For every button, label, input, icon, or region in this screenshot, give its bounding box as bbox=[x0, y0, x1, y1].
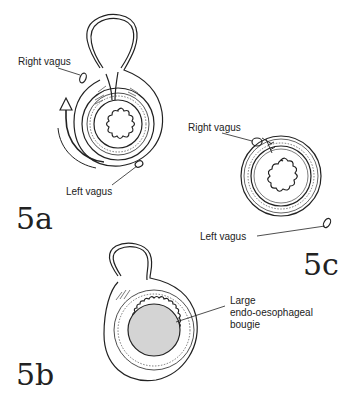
fig5b-bougie-label-line3: bougie bbox=[230, 319, 260, 331]
fig5b-drawing bbox=[104, 243, 225, 380]
fig5c-figure-number: 5c bbox=[303, 250, 339, 280]
fig5c-right-vagus-label: Right vagus bbox=[188, 122, 241, 134]
fig5c-left-vagus-label: Left vagus bbox=[200, 231, 246, 243]
fig5a-right-vagus-label: Right vagus bbox=[18, 56, 71, 68]
fig5c-drawing bbox=[222, 133, 332, 236]
fig5a-left-vagus-label: Left vagus bbox=[66, 186, 112, 198]
fig5a-figure-number: 5a bbox=[16, 204, 53, 234]
diagram-canvas: Right vagus Left vagus 5a Right vagus Le… bbox=[0, 0, 352, 396]
fig5b-figure-number: 5b bbox=[16, 360, 54, 390]
fig5b-bougie-label-line2: endo-oesophageal bbox=[230, 307, 313, 319]
fig5a-drawing bbox=[58, 14, 163, 185]
fig5b-bougie-label-line1: Large bbox=[230, 295, 256, 307]
